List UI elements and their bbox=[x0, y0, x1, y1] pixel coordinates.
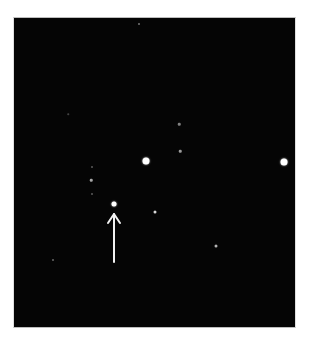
arrow-up-icon bbox=[0, 0, 315, 342]
